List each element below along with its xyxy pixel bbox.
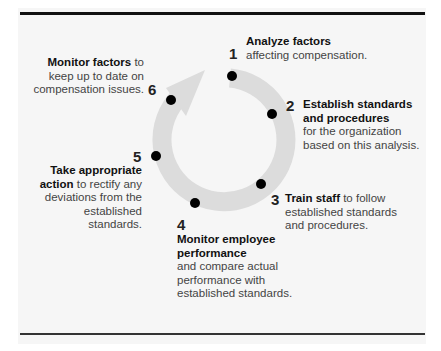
step-3-label: Train staff to follow established standa… (285, 192, 405, 233)
step-4-title: Monitor employee performance (177, 233, 275, 259)
step-4-text: and compare actual performance with esta… (177, 260, 292, 299)
step-6-number: 6 (148, 82, 156, 97)
step-2-title: Establish standards and procedures (303, 98, 412, 124)
step-4-dot (190, 198, 200, 208)
step-1-number: 1 (229, 46, 237, 61)
step-4-number: 4 (177, 217, 185, 232)
step-5-number: 5 (133, 149, 141, 164)
step-4-label: Monitor employee performance and compare… (177, 233, 297, 301)
step-1-text: affecting compensation. (246, 49, 367, 61)
step-1-label: Analyze factors affecting compensation. (246, 35, 426, 62)
step-2-number: 2 (286, 98, 294, 113)
step-1-title: Analyze factors (246, 35, 331, 47)
step-6-dot (166, 95, 176, 105)
step-5-dot (151, 151, 161, 161)
step-2-dot (267, 109, 277, 119)
step-2-text: for the organization based on this analy… (303, 125, 419, 151)
step-3-dot (256, 179, 266, 189)
step-1-dot (227, 71, 237, 81)
step-6-label: Monitor factors to keep up to date on co… (30, 56, 144, 97)
step-2-label: Establish standards and procedures for t… (303, 98, 428, 152)
step-3-title: Train staff (285, 192, 340, 204)
step-3-number: 3 (271, 192, 279, 207)
step-5-label: Take appropriate action to rectify any d… (30, 164, 142, 232)
step-6-title: Monitor factors (48, 56, 132, 68)
